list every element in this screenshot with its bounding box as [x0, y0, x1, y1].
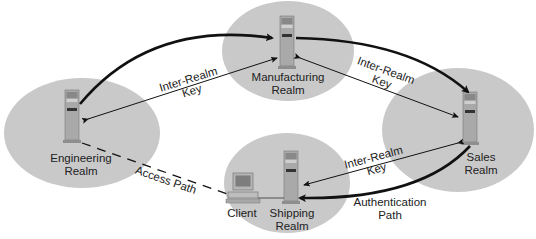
- diagram-graphics: [0, 0, 536, 239]
- realm-label-sales: Sales Realm: [456, 151, 506, 177]
- auth-path-line: Path: [340, 209, 440, 222]
- realm-label-line: Shipping: [262, 207, 322, 220]
- realm-label-line: Manufacturing: [240, 71, 336, 84]
- realm-label-engineering: Engineering Realm: [36, 152, 126, 178]
- auth-path-label: Authentication Path: [340, 196, 440, 222]
- realm-label-line: Realm: [262, 220, 322, 233]
- realm-label-line: Realm: [456, 164, 506, 177]
- realm-label-manufacturing: Manufacturing Realm: [240, 71, 336, 97]
- auth-path-line: Authentication: [340, 196, 440, 209]
- realm-label-line: Realm: [36, 165, 126, 178]
- client-label: Client: [222, 207, 262, 220]
- realm-label-line: Engineering: [36, 152, 126, 165]
- realm-label-line: Sales: [456, 151, 506, 164]
- cross-realm-diagram: Engineering Realm Manufacturing Realm Sa…: [0, 0, 536, 239]
- realm-label-line: Realm: [240, 84, 336, 97]
- realm-label-shipping: Shipping Realm: [262, 207, 322, 233]
